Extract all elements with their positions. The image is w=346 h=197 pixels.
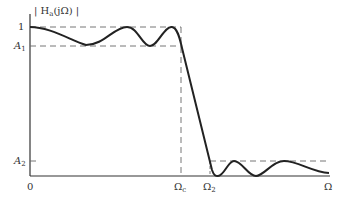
filter-response-figure [0, 0, 346, 197]
x-tick-zero: 0 [27, 182, 33, 192]
y-tick-a2: A2 [14, 156, 26, 168]
y-tick-one: 1 [18, 22, 24, 32]
a2-sub: 2 [21, 160, 25, 168]
ylabel-tail: (jΩ) | [53, 5, 79, 16]
omega-2-sub: 2 [211, 186, 215, 194]
x-tick-omega-2: Ω2 [203, 182, 216, 194]
magnitude-response-curve [30, 27, 329, 176]
ylabel-main: | H [34, 5, 49, 16]
y-tick-a1: A1 [14, 41, 26, 53]
x-axis-label-omega: Ω [324, 182, 332, 192]
y-axis-label: | Ha(jΩ) | [34, 6, 79, 18]
a1-sub: 1 [21, 45, 25, 53]
omega-c-sub: c [182, 186, 186, 194]
x-tick-omega-c: Ωc [174, 182, 186, 194]
